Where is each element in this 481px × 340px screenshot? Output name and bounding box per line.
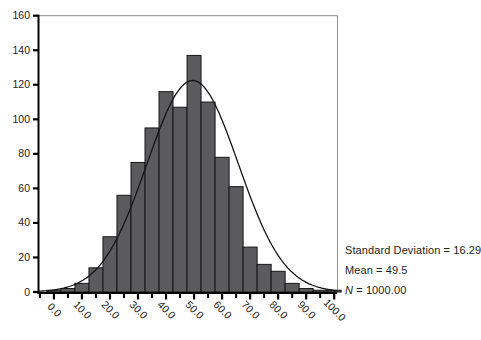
stats-annotation: Standard Deviation = 16.29 Mean = 49.5 N…: [345, 240, 481, 300]
histogram-bar: [89, 268, 103, 292]
stat-value: 49.5: [386, 264, 408, 276]
x-tick-label: 30.0: [127, 298, 150, 321]
y-tick-label: 80: [18, 147, 30, 159]
x-tick-label: 10.0: [71, 298, 94, 321]
y-tick-label: 40: [18, 216, 30, 228]
histogram-bar: [215, 157, 229, 292]
histogram-bar: [117, 195, 131, 292]
y-tick-label: 20: [18, 251, 30, 263]
stat-label: Standard Deviation: [345, 244, 440, 256]
x-tick-label: 90.0: [296, 298, 319, 321]
stat-label: N: [345, 284, 353, 296]
x-tick-label: 80.0: [267, 298, 290, 321]
x-tick-label: 70.0: [239, 298, 262, 321]
x-tick-label: 50.0: [183, 298, 206, 321]
x-tick-label: 20.0: [99, 298, 122, 321]
histogram-bar: [131, 162, 145, 292]
stat-value: 16.29: [453, 244, 481, 256]
stat-label: Mean: [345, 264, 373, 276]
y-axis-ticks: 020406080100120140160: [12, 9, 38, 297]
stat-n: N = 1000.00: [345, 280, 481, 300]
stat-separator: =: [353, 284, 366, 296]
y-tick-label: 100: [12, 113, 30, 125]
histogram-bar: [187, 55, 201, 292]
histogram-bar: [299, 289, 313, 292]
y-tick-label: 60: [18, 182, 30, 194]
histogram-bar: [243, 247, 257, 292]
histogram-bar: [75, 283, 89, 292]
stat-separator: =: [373, 264, 386, 276]
y-tick-label: 0: [24, 286, 30, 298]
y-tick-label: 160: [12, 9, 30, 21]
x-tick-label: 40.0: [155, 298, 178, 321]
y-tick-label: 140: [12, 44, 30, 56]
histogram-bar: [103, 237, 117, 292]
histogram-bar: [61, 289, 75, 292]
histogram-bar: [271, 271, 285, 292]
histogram-bar: [145, 128, 159, 292]
histogram-bar: [173, 107, 187, 292]
histogram-bars: [47, 55, 341, 292]
stat-standard-deviation: Standard Deviation = 16.29: [345, 240, 481, 260]
histogram-bar: [201, 102, 215, 292]
stat-separator: =: [440, 244, 453, 256]
x-tick-label: 100.0: [321, 296, 348, 323]
y-tick-label: 120: [12, 78, 30, 90]
x-axis-ticks: 0.010.020.030.040.050.060.070.080.090.01…: [45, 294, 348, 323]
stat-value: 1000.00: [366, 284, 406, 296]
stat-mean: Mean = 49.5: [345, 260, 481, 280]
histogram-bar: [229, 187, 243, 292]
histogram-bar: [257, 264, 271, 292]
histogram-bar: [159, 92, 173, 292]
histogram-bar: [285, 283, 299, 292]
histogram-bar: [313, 290, 327, 292]
x-tick-label: 0.0: [45, 300, 64, 319]
x-tick-label: 60.0: [211, 298, 234, 321]
